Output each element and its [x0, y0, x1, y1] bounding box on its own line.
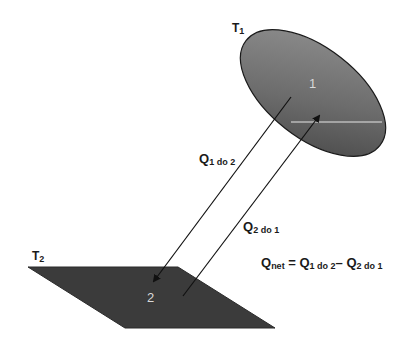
eq-qnet-subscript: net: [271, 261, 285, 271]
eq-minus: –: [336, 255, 347, 270]
temperature-label-t2: T2: [32, 250, 44, 264]
temperature-label-t1: T1: [232, 22, 244, 36]
q1-subscript: 1 do 2: [209, 157, 235, 167]
surface-1-ellipse: [218, 5, 407, 181]
eq-term2-symbol: Q: [346, 255, 356, 270]
eq-term2-subscript: 2 do 1: [357, 261, 383, 271]
q2-subscript: 2 do 1: [253, 225, 279, 235]
net-heat-equation: Qnet = Q1 do 2– Q2 do 1: [261, 256, 383, 271]
t2-subscript: 2: [39, 254, 44, 264]
t1-subscript: 1: [239, 26, 244, 36]
radiation-exchange-diagram: [0, 0, 413, 342]
q2-symbol: Q: [243, 219, 253, 234]
eq-qnet-symbol: Q: [261, 255, 271, 270]
eq-term1-subscript: 1 do 2: [310, 261, 336, 271]
eq-equals: =: [285, 255, 300, 270]
surface-2-id-label: 2: [147, 291, 154, 304]
label-q2-do-1: Q2 do 1: [243, 220, 279, 235]
arrow-q1-to-2: [154, 97, 291, 281]
surface-1-id-label: 1: [309, 77, 316, 90]
label-q1-do-2: Q1 do 2: [199, 152, 235, 167]
q1-symbol: Q: [199, 151, 209, 166]
eq-term1-symbol: Q: [299, 255, 309, 270]
